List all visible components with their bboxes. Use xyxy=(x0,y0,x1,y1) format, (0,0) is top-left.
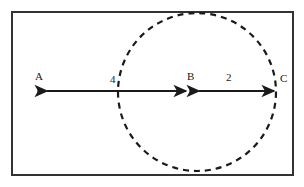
point-c-label: C xyxy=(280,72,287,84)
point-b-label: B xyxy=(187,70,194,82)
point-a-dot xyxy=(37,88,42,93)
segment-ab-length-label: 4 xyxy=(110,73,116,85)
point-a-label: A xyxy=(35,70,43,82)
segment-bc-length-label: 2 xyxy=(226,71,232,83)
geometry-figure: A B C 4 2 xyxy=(0,0,304,187)
figure-canvas: A B C 4 2 xyxy=(0,0,304,187)
point-b-dot xyxy=(189,88,194,93)
outer-rectangle-border xyxy=(12,12,293,175)
